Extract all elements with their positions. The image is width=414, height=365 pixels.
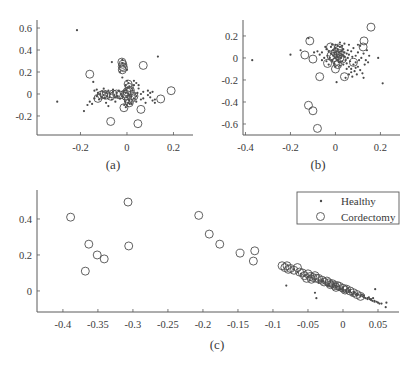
data-point-healthy	[372, 297, 374, 299]
data-point-healthy	[351, 76, 353, 78]
data-point-healthy	[144, 102, 146, 104]
figure: -0.200.20.40.6-0.200.2 (a) -0.6-0.4-0.20…	[0, 0, 414, 365]
x-tick-label: -0.2	[72, 142, 89, 153]
y-tick-label: 0	[233, 53, 238, 64]
y-tick-label: 0.4	[19, 45, 33, 56]
data-point-healthy	[335, 81, 337, 83]
panel-label-b: (b)	[310, 157, 325, 172]
data-point-healthy	[92, 81, 94, 83]
data-point-cordectomy	[316, 73, 324, 81]
data-point-healthy	[316, 50, 318, 52]
data-point-healthy	[103, 94, 105, 96]
data-point-healthy	[121, 76, 123, 78]
x-tick-label: -0.35	[87, 319, 109, 330]
data-point-healthy	[89, 101, 91, 103]
series-healthy	[251, 37, 384, 84]
data-point-healthy	[133, 80, 135, 82]
data-point-healthy	[154, 102, 156, 104]
x-tick-label: 0	[124, 142, 129, 153]
data-point-healthy	[328, 63, 330, 65]
data-point-healthy	[385, 302, 387, 304]
data-point-healthy	[135, 82, 137, 84]
data-point-cordectomy	[249, 257, 257, 265]
y-tick-label: 0.2	[225, 31, 238, 42]
data-point-cordectomy	[340, 73, 348, 81]
data-point-healthy	[380, 302, 382, 304]
data-point-healthy	[315, 297, 317, 299]
data-point-cordectomy	[216, 240, 224, 248]
data-point-healthy	[348, 54, 350, 56]
data-point-cordectomy	[298, 269, 306, 277]
data-point-cordectomy	[137, 105, 145, 113]
data-point-cordectomy	[306, 37, 314, 45]
data-point-healthy	[368, 296, 370, 298]
data-point-healthy	[355, 55, 357, 57]
data-point-healthy	[362, 77, 364, 79]
data-point-cordectomy	[124, 198, 132, 206]
data-point-healthy	[251, 59, 253, 61]
data-point-cordectomy	[81, 267, 89, 275]
data-point-healthy	[357, 66, 359, 68]
data-point-cordectomy	[367, 23, 375, 31]
y-tick-label: -0.4	[221, 97, 238, 108]
x-tick-label: -0.4	[55, 319, 72, 330]
y-tick-label: 0.6	[19, 23, 32, 34]
y-tick-label: -0.2	[15, 111, 32, 122]
x-tick-label: -0.1	[265, 319, 282, 330]
data-point-healthy	[348, 66, 350, 68]
axes	[37, 20, 193, 135]
y-tick-label: 0.2	[19, 250, 32, 261]
data-point-healthy	[285, 284, 287, 286]
data-point-cordectomy	[309, 55, 317, 63]
data-point-healthy	[361, 72, 363, 74]
data-point-healthy	[377, 57, 379, 59]
legend-label-healthy: Healthy	[341, 195, 376, 207]
data-point-healthy	[96, 88, 98, 90]
panel-label-c: (c)	[210, 337, 224, 352]
data-point-healthy	[373, 301, 375, 303]
data-point-healthy	[352, 63, 354, 65]
data-point-healthy	[151, 99, 153, 101]
data-point-healthy	[342, 63, 344, 65]
data-point-cordectomy	[309, 107, 317, 115]
data-point-healthy	[325, 60, 327, 62]
data-point-healthy	[355, 67, 357, 69]
data-point-healthy	[330, 46, 332, 48]
data-point-healthy	[289, 54, 291, 56]
data-point-healthy	[365, 59, 367, 61]
x-tick-label: 0	[340, 319, 345, 330]
data-point-healthy	[362, 52, 364, 54]
data-point-healthy	[343, 43, 345, 45]
data-point-healthy	[348, 44, 350, 46]
data-point-healthy	[364, 63, 366, 65]
scatter-plot-b: -0.6-0.4-0.200.2-0.4-0.200.2	[221, 20, 400, 153]
data-point-healthy	[103, 87, 105, 89]
x-tick-label: -0.2	[195, 319, 212, 330]
data-point-healthy	[378, 302, 380, 304]
x-tick-label: -0.2	[282, 142, 299, 153]
data-point-healthy	[352, 47, 354, 49]
data-point-healthy	[370, 298, 372, 300]
data-point-cordectomy	[125, 242, 133, 250]
data-point-healthy	[142, 97, 144, 99]
data-point-healthy	[346, 68, 348, 70]
data-point-healthy	[344, 77, 346, 79]
data-point-cordectomy	[100, 255, 108, 263]
legend: Healthy Cordectomy	[297, 192, 399, 224]
x-tick-label: 0.2	[167, 142, 180, 153]
data-point-healthy	[374, 288, 376, 290]
data-point-healthy	[357, 51, 359, 53]
data-point-healthy	[142, 91, 144, 93]
data-point-healthy	[360, 57, 362, 59]
y-tick-label: -0.6	[221, 119, 238, 130]
data-point-healthy	[140, 98, 142, 100]
y-tick-label: 0.2	[19, 67, 32, 78]
data-point-cordectomy	[86, 70, 94, 78]
axes	[243, 20, 400, 135]
data-point-cordectomy	[236, 249, 244, 257]
data-point-healthy	[86, 104, 88, 106]
data-point-healthy	[371, 300, 373, 302]
legend-dot-marker-icon	[320, 200, 322, 202]
data-point-healthy	[353, 70, 355, 72]
data-point-healthy	[357, 44, 359, 46]
